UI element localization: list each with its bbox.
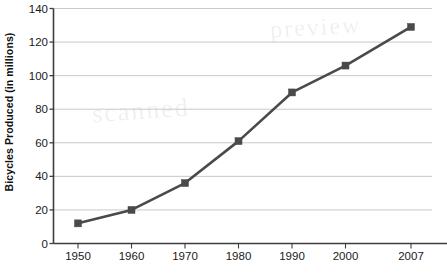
data-point-1980 (235, 138, 242, 145)
series-line-bicycles-produced (78, 27, 411, 223)
x-tick-label-2000: 2000 (333, 250, 359, 262)
x-tick-label-1970: 1970 (172, 250, 198, 262)
data-point-1970 (182, 180, 189, 187)
gridlines (54, 9, 433, 210)
axis-lines (50, 9, 447, 244)
x-tick-label-1980: 1980 (226, 250, 252, 262)
x-tick-label-2007: 2007 (398, 250, 424, 262)
data-point-2007 (408, 23, 415, 30)
data-point-1990 (289, 89, 296, 96)
data-point-1950 (75, 220, 82, 227)
bicycle-production-line-chart: scannedpreview Bicycles Produced (in mil… (0, 0, 447, 276)
x-tick-label-1950: 1950 (65, 250, 91, 262)
plot-area (0, 0, 447, 276)
data-point-1960 (128, 206, 135, 213)
data-point-2000 (342, 62, 349, 69)
x-axis-tick-labels: 1950196019701980199020002007 (0, 250, 447, 270)
data-series-line (78, 27, 411, 223)
x-tick-label-1960: 1960 (119, 250, 145, 262)
x-tick-label-1990: 1990 (279, 250, 305, 262)
